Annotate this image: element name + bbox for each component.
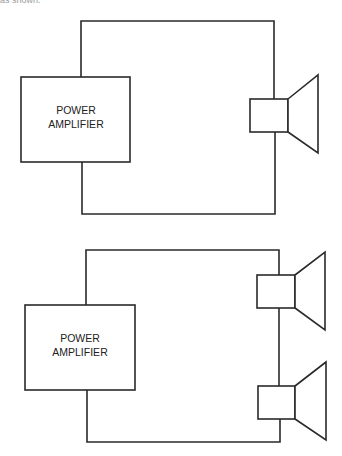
amplifier-label-line2: AMPLIFIER [52,346,108,358]
wire-top [86,250,279,305]
amplifier-label-line1: POWER [56,104,96,116]
wiring-diagrams: POWER AMPLIFIER POWER AMPLIFIER [0,0,342,456]
amplifier-label-line2: AMPLIFIER [48,118,104,130]
amplifier-label-line1: POWER [60,332,100,344]
diagram-single-speaker: POWER AMPLIFIER [21,21,318,214]
diagram-dual-speaker: POWER AMPLIFIER [25,250,326,442]
speaker-icon [257,252,325,330]
speaker-icon [250,75,318,153]
speaker-icon [258,362,326,440]
wire-bottom [87,390,280,442]
